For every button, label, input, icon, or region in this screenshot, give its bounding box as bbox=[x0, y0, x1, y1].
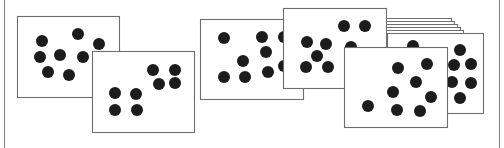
dot bbox=[465, 58, 477, 70]
dot bbox=[36, 35, 48, 47]
dot bbox=[169, 64, 181, 76]
dot bbox=[63, 69, 75, 81]
dot bbox=[72, 28, 84, 40]
dot bbox=[153, 78, 165, 90]
dot bbox=[109, 87, 121, 99]
card-2 bbox=[93, 52, 195, 133]
dot bbox=[425, 91, 437, 103]
dot bbox=[256, 31, 268, 43]
dot bbox=[131, 104, 143, 116]
dot-cards-figure bbox=[0, 0, 504, 148]
dot bbox=[322, 61, 334, 73]
dot bbox=[42, 66, 54, 78]
dot bbox=[387, 86, 399, 98]
dot bbox=[218, 32, 230, 44]
dot bbox=[260, 46, 272, 58]
dot bbox=[300, 61, 312, 73]
dot bbox=[311, 50, 323, 62]
dot bbox=[454, 92, 466, 104]
dot bbox=[239, 71, 251, 83]
dot bbox=[338, 20, 350, 32]
dot bbox=[410, 76, 422, 88]
dot bbox=[301, 36, 313, 48]
dot bbox=[218, 71, 230, 83]
dot bbox=[34, 51, 46, 63]
dot bbox=[262, 66, 274, 78]
dot bbox=[454, 44, 466, 56]
dot bbox=[414, 105, 426, 117]
dot bbox=[109, 104, 121, 116]
card-outline bbox=[93, 52, 195, 133]
dot bbox=[448, 59, 460, 71]
dot bbox=[421, 58, 433, 70]
card-layers bbox=[18, 9, 484, 133]
dot bbox=[391, 104, 403, 116]
dot bbox=[93, 38, 105, 50]
dot bbox=[77, 51, 89, 63]
dot bbox=[392, 62, 404, 74]
card-6 bbox=[345, 48, 448, 128]
dot bbox=[237, 55, 249, 67]
dot bbox=[320, 38, 332, 50]
dot bbox=[169, 77, 181, 89]
dot bbox=[362, 100, 374, 112]
dot bbox=[54, 49, 66, 61]
dot bbox=[130, 88, 142, 100]
dot bbox=[359, 20, 371, 32]
dot bbox=[147, 64, 159, 76]
figure-canvas bbox=[0, 0, 504, 148]
dot bbox=[465, 77, 477, 89]
